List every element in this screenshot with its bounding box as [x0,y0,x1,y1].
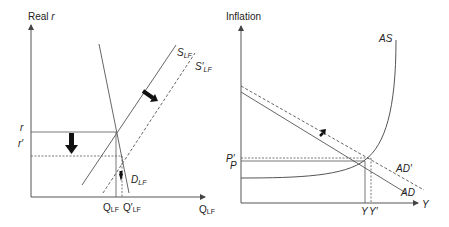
down-arrow-icon [65,133,78,154]
r-label: r [20,122,24,133]
ad-prime-label: AD′ [395,163,413,174]
supply-prime-curve [103,53,195,193]
small-down-arrow-icon [119,171,123,181]
supply-label: SLF [177,47,193,59]
y-prime-label: Y′ [369,206,379,217]
x-axis-label: QLF [199,204,215,215]
q-label: QLF [103,202,119,213]
supply-prime-label: S′LF [195,61,212,73]
as-ad-panel: Inflation Y P′ P Y Y′ AS AD′ AD [226,11,430,217]
economics-diagram: Real r r r′ SLF S′LF DLF QLF Q′LF QLF [0,0,449,227]
y-label: Y [361,206,369,217]
as-curve [241,40,396,178]
inflation-axis-label: Inflation [226,11,261,22]
supply-curve [82,45,176,185]
p-label: P [230,160,237,171]
supply-shift-arrow-icon [143,91,158,102]
output-axis-label: Y [422,199,430,210]
demand-curve [99,44,129,193]
ad-prime-curve [241,86,424,190]
r-prime-label: r′ [18,138,24,149]
demand-label: DLF [131,174,147,186]
as-label: AS [378,33,393,44]
q-prime-label: Q′LF [123,202,141,213]
y-axis-label: Real r [28,11,55,22]
ad-label: AD [400,187,415,198]
ad-shift-arrow-icon [320,129,326,136]
loanable-funds-panel: Real r r r′ SLF S′LF DLF QLF Q′LF QLF [18,11,215,215]
